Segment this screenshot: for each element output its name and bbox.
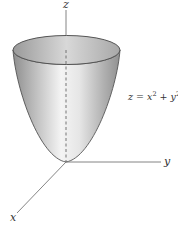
x-axis-label: x bbox=[10, 212, 16, 223]
paraboloid-graphic bbox=[0, 0, 178, 228]
paraboloid-surface bbox=[13, 50, 120, 162]
paraboloid-figure: z y x z = x2 + y2 bbox=[0, 0, 178, 228]
x-axis bbox=[17, 162, 66, 213]
equation-label: z = x2 + y2 bbox=[128, 91, 178, 102]
paraboloid-rim bbox=[13, 36, 120, 65]
equation-term2-exp: 2 bbox=[176, 90, 178, 98]
equation-equals: = bbox=[136, 91, 144, 102]
z-axis-label: z bbox=[63, 0, 69, 10]
equation-term1-exp: 2 bbox=[152, 90, 156, 98]
y-axis-label: y bbox=[164, 156, 170, 167]
equation-plus: + bbox=[160, 91, 168, 102]
equation-lhs: z bbox=[128, 91, 133, 102]
